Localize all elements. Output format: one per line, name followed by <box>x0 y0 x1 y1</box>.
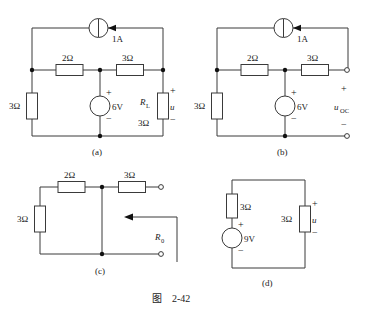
resistor-b-3ohm-top-body <box>302 65 329 76</box>
panel-b: 1A 2Ω 3Ω 3Ω + − 6V + u OC − <box>194 19 349 158</box>
resistor-b-3ohm-left-label: 3Ω <box>194 101 206 111</box>
voltage-a-minus: − <box>170 114 176 125</box>
resistor-a-3ohm-top-body <box>117 65 144 76</box>
voltage-b-subscript: OC <box>340 107 349 114</box>
voltage-b-minus: − <box>341 119 347 130</box>
resistor-d-3ohm-right-body <box>300 206 311 232</box>
resistor-c-3ohm-body <box>119 182 146 193</box>
voltage-source-a-minus: − <box>106 113 112 124</box>
panel-d-caption: (d) <box>262 278 273 288</box>
node-a-mid-bottom <box>98 134 102 138</box>
voltage-b-plus: + <box>341 83 347 94</box>
resistance-c-subscript: 0 <box>161 237 164 244</box>
node-a-right <box>161 68 165 72</box>
voltage-source-d-plus: + <box>238 219 244 230</box>
resistor-a-3ohm-left-label: 3Ω <box>9 101 21 111</box>
resistor-a-load-subscript: L <box>146 102 150 109</box>
node-a-mid-top <box>98 68 102 72</box>
current-source-b-label: 1A <box>297 34 309 44</box>
current-source-a-label: 1A <box>112 34 124 44</box>
resistor-b-3ohm-top-label: 3Ω <box>307 53 319 63</box>
resistor-c-3ohm-left-label: 3Ω <box>17 214 29 224</box>
node-b-mid-top <box>283 68 287 72</box>
panel-c-caption: (c) <box>95 266 105 276</box>
node-c-bottom <box>100 252 104 256</box>
voltage-source-d-minus: − <box>238 245 244 256</box>
voltage-d-minus: − <box>312 227 318 238</box>
resistance-c-arrow-icon <box>124 214 133 221</box>
figure-caption-number: 2-42 <box>172 293 190 304</box>
figure-caption-prefix: 图 <box>152 293 162 304</box>
resistor-a-load-body <box>158 93 169 119</box>
current-source-b-arrow-icon <box>293 25 301 31</box>
resistor-c-2ohm-body <box>58 182 85 193</box>
wire-b-top-left <box>217 28 274 70</box>
voltage-source-b-plus: + <box>291 87 297 98</box>
resistor-a-2ohm-label: 2Ω <box>62 53 74 63</box>
panel-d: 3Ω + − 9V 3Ω + u − (d) <box>222 180 318 288</box>
circuit-diagram-canvas: 1A 2Ω 3Ω 3Ω + − 6V <box>0 0 370 315</box>
resistor-c-3ohm-left-body <box>35 206 46 232</box>
voltage-a-name: u <box>170 102 175 112</box>
voltage-source-d-label: 9V <box>244 234 256 244</box>
voltage-a-plus: + <box>170 85 176 96</box>
resistor-c-3ohm-label: 3Ω <box>124 170 136 180</box>
voltage-d-plus: + <box>312 198 318 209</box>
panel-c: 2Ω 3Ω 3Ω R 0 (c) <box>17 170 177 276</box>
node-a-left <box>30 68 34 72</box>
resistor-a-2ohm-body <box>56 65 83 76</box>
resistor-b-2ohm-label: 2Ω <box>247 53 259 63</box>
open-terminal-b-top <box>345 68 350 73</box>
voltage-source-a-plus: + <box>106 87 112 98</box>
resistor-a-3ohm-top-label: 3Ω <box>122 53 134 63</box>
wire-a-top-left <box>32 28 89 70</box>
resistor-c-2ohm-label: 2Ω <box>64 170 76 180</box>
resistor-d-3ohm-left-label: 3Ω <box>240 202 252 212</box>
voltage-source-b-minus: − <box>291 113 297 124</box>
panel-a-caption: (a) <box>92 147 102 157</box>
resistor-a-load-name: R <box>139 97 146 107</box>
node-b-left <box>215 68 219 72</box>
resistance-c-name: R <box>154 232 161 242</box>
resistor-a-load-value: 3Ω <box>138 118 150 128</box>
resistor-a-3ohm-left-body <box>27 93 38 119</box>
panel-b-caption: (b) <box>277 147 288 157</box>
voltage-source-b-label: 6V <box>297 102 309 112</box>
open-terminal-b-bottom <box>345 134 350 139</box>
resistor-d-3ohm-right-label: 3Ω <box>281 214 293 224</box>
figure-2-42: 1A 2Ω 3Ω 3Ω + − 6V <box>0 0 370 315</box>
node-b-mid-bottom <box>283 134 287 138</box>
current-source-a-arrow-icon <box>108 25 116 31</box>
open-terminal-c-bottom <box>159 252 164 257</box>
node-c-top <box>100 185 104 189</box>
resistor-b-3ohm-left-body <box>212 93 223 119</box>
resistor-b-2ohm-body <box>241 65 268 76</box>
open-terminal-c-top <box>159 185 164 190</box>
voltage-d-name: u <box>312 215 317 225</box>
panel-a: 1A 2Ω 3Ω 3Ω + − 6V <box>9 19 176 158</box>
voltage-b-name: u <box>334 102 339 112</box>
resistor-d-3ohm-left-body <box>227 194 238 218</box>
voltage-source-a-label: 6V <box>112 102 124 112</box>
